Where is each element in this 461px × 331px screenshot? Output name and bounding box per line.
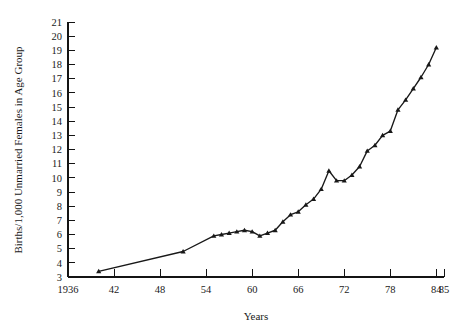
data-series	[96, 45, 439, 273]
x-axis-title: Years	[244, 310, 269, 322]
line-chart: 3456789101112131415161718192021 19364248…	[0, 0, 461, 331]
x-axis: 1936424854606672788485	[58, 269, 450, 295]
y-tick-label: 14	[52, 116, 63, 127]
data-point-marker	[388, 129, 393, 133]
data-point-marker	[357, 164, 362, 168]
y-tick-label: 9	[57, 187, 62, 198]
y-tick-label: 3	[57, 272, 62, 283]
data-point-marker	[319, 187, 324, 191]
y-tick-label: 4	[57, 258, 63, 269]
y-tick-label: 8	[57, 201, 62, 212]
y-tick-label: 10	[52, 173, 63, 184]
y-tick-label: 6	[57, 229, 62, 240]
y-axis-title: Births/1,000 Unmarried Females in Age Gr…	[12, 46, 24, 254]
y-tick-label: 17	[52, 73, 63, 84]
x-tick-label: 66	[293, 284, 304, 295]
chart-figure: 3456789101112131415161718192021 19364248…	[0, 0, 461, 331]
y-tick-label: 11	[52, 158, 62, 169]
x-tick-label: 1936	[58, 284, 79, 295]
data-point-marker	[326, 168, 331, 172]
y-tick-label: 18	[52, 59, 63, 70]
y-tick-label: 16	[52, 88, 63, 99]
y-tick-label: 19	[52, 45, 63, 56]
x-tick-label: 78	[385, 284, 396, 295]
y-tick-label: 15	[52, 102, 63, 113]
y-tick-label: 20	[52, 31, 63, 42]
data-line	[99, 48, 437, 272]
y-tick-label: 5	[57, 243, 62, 254]
x-tick-label: 42	[109, 284, 120, 295]
x-tick-label: 54	[201, 284, 212, 295]
x-tick-label: 48	[155, 284, 166, 295]
x-tick-label: 85	[439, 284, 450, 295]
x-tick-label: 72	[339, 284, 350, 295]
y-tick-label: 12	[52, 144, 63, 155]
y-tick-label: 7	[57, 215, 62, 226]
y-axis: 3456789101112131415161718192021	[52, 17, 76, 283]
y-tick-label: 21	[52, 17, 63, 28]
data-point-marker	[434, 45, 439, 49]
y-tick-label: 13	[52, 130, 63, 141]
data-point-marker	[426, 62, 431, 66]
x-tick-label: 60	[247, 284, 258, 295]
